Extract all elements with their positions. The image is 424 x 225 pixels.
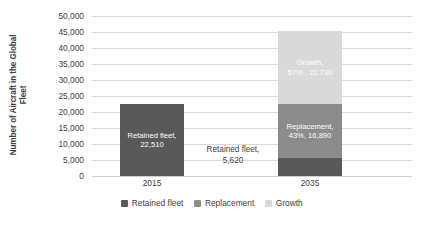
x-axis-category-labels: 2015 2035 (92, 178, 412, 192)
bar-segment-replacement-2035[interactable]: Replacement,43%, 16,890 (278, 104, 342, 158)
y-axis-tick-35000: 35,000 (58, 59, 84, 69)
x-axis-label-2015: 2015 (120, 178, 184, 188)
bar-data-label: Retained fleet,22,510 (128, 131, 177, 150)
y-axis-tick-40000: 40,000 (58, 43, 84, 53)
legend-swatch-icon (265, 200, 272, 207)
bar-data-label: Growth,57% , 22,730 (288, 58, 333, 77)
chart-legend: Retained fleetReplacementGrowth (0, 198, 424, 208)
y-axis-tick-10000: 10,000 (58, 139, 84, 149)
x-axis-label-2035: 2035 (278, 178, 342, 188)
y-axis-tick-25000: 25,000 (58, 91, 84, 101)
legend-item-retained-fleet[interactable]: Retained fleet (121, 198, 183, 208)
y-axis-tick-labels: 50,00045,00040,00035,00030,00025,00020,0… (36, 0, 88, 190)
y-axis-tick-20000: 20,000 (58, 107, 84, 117)
gridline (92, 96, 412, 97)
y-axis-tick-0: 0 (79, 171, 84, 181)
bar-data-label: Replacement,43%, 16,890 (287, 122, 334, 141)
legend-swatch-icon (121, 200, 128, 207)
y-axis-tick-50000: 50,000 (58, 11, 84, 21)
legend-label: Retained fleet (132, 198, 184, 208)
y-axis-tick-5000: 5,000 (63, 155, 84, 165)
bar-column-2015[interactable]: Retained fleet,22,510 (120, 104, 184, 176)
gridline (92, 16, 412, 17)
y-axis-tick-15000: 15,000 (58, 123, 84, 133)
bar-column-2035[interactable]: Growth,57% , 22,730Replacement,43%, 16,8… (278, 31, 342, 176)
legend-item-replacement[interactable]: Replacement (194, 198, 254, 208)
gridline (92, 80, 412, 81)
y-axis-tick-45000: 45,000 (58, 27, 84, 37)
legend-swatch-icon (194, 200, 201, 207)
y-axis-title-line-2: Fleet (19, 35, 29, 156)
gridline (92, 32, 412, 33)
gridline (92, 176, 412, 177)
y-axis-tick-30000: 30,000 (58, 75, 84, 85)
gridline (92, 64, 412, 65)
legend-item-growth[interactable]: Growth (265, 198, 303, 208)
stacked-bar-chart: Number of Aircraft in the Global Fleet 5… (0, 0, 424, 225)
bar-segment-retained-fleet-2035[interactable] (278, 158, 342, 176)
bar-segment-growth-2035[interactable]: Growth,57% , 22,730 (278, 31, 342, 104)
plot-area: Retained fleet,22,510Growth,57% , 22,730… (92, 16, 412, 176)
y-axis-title-line-1: Number of Aircraft in the Global (9, 35, 19, 156)
y-axis-title: Number of Aircraft in the Global Fleet (2, 0, 36, 190)
legend-label: Growth (276, 198, 303, 208)
data-label-retained-fleet-2035: Retained fleet,5,620 (190, 145, 276, 166)
bar-segment-retained-fleet-2015[interactable]: Retained fleet,22,510 (120, 104, 184, 176)
legend-label: Replacement (205, 198, 254, 208)
gridline (92, 48, 412, 49)
